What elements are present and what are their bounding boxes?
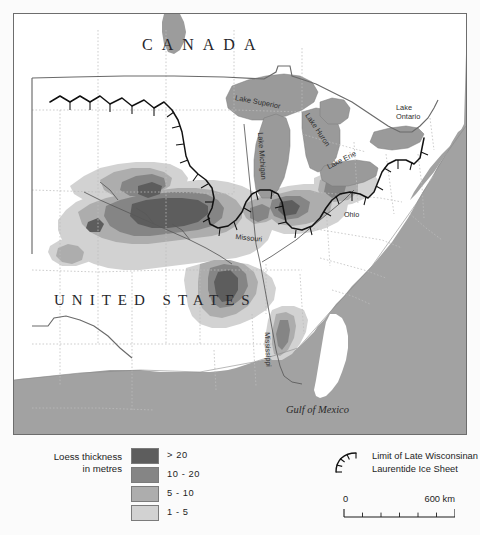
scale-bar-max-label: 600 km (425, 494, 456, 504)
legend-swatch-10-20 (131, 467, 159, 483)
legend-swatch-over-20 (131, 448, 159, 464)
legend-label-over-20: > 20 (167, 450, 188, 460)
ice-key-line2: Laurentide Ice Sheet (372, 463, 478, 476)
map-graphic (14, 14, 466, 434)
map-frame: CANADA UNITED STATES Lake Superior Lake … (13, 13, 467, 435)
legend-title-line2: in metres (24, 463, 122, 475)
ice-key-line1: Limit of Late Wisconsinan (372, 450, 478, 463)
scale-bar-min-label: 0 (343, 494, 348, 504)
legend-swatch-1-5 (131, 505, 159, 521)
legend-swatch-5-10 (131, 486, 159, 502)
legend-label-1-5: 1 - 5 (167, 507, 189, 517)
map-page: CANADA UNITED STATES Lake Superior Lake … (0, 0, 480, 535)
legend-label-5-10: 5 - 10 (167, 488, 194, 498)
scale-bar-graphic (343, 509, 455, 518)
legend-title-line1: Loess thickness (24, 451, 122, 463)
ice-sheet-limit-key-text: Limit of Late Wisconsinan Laurentide Ice… (372, 450, 478, 475)
ice-sheet-limit-icon (332, 450, 366, 476)
legend-label-10-20: 10 - 20 (167, 469, 200, 479)
legend-title: Loess thickness in metres (24, 451, 122, 475)
